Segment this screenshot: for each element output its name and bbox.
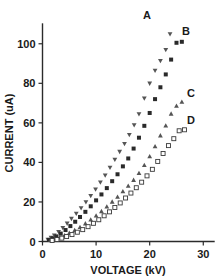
data-point	[129, 191, 133, 195]
data-point	[140, 180, 144, 184]
data-point	[104, 204, 109, 208]
data-point	[112, 158, 117, 162]
data-point	[69, 217, 74, 221]
series-markers-group	[45, 32, 186, 242]
x-axis-ticks: 0102030	[39, 242, 209, 260]
data-point	[60, 236, 64, 240]
x-axis-title: VOLTAGE (kV)	[90, 264, 166, 276]
data-point	[94, 213, 99, 217]
data-point	[68, 224, 72, 228]
data-point	[137, 112, 142, 116]
x-tick-label: 20	[144, 248, 156, 260]
data-point	[134, 186, 138, 190]
y-axis-title: CURRENT (uA)	[3, 93, 15, 172]
x-tick-label: 0	[39, 248, 45, 260]
data-point	[158, 59, 163, 63]
data-point	[103, 174, 108, 178]
data-point	[50, 239, 54, 243]
data-point	[73, 220, 77, 224]
data-point	[147, 154, 152, 158]
data-point	[78, 215, 82, 219]
series-labels-group: ABCD	[143, 9, 195, 126]
data-point	[126, 184, 131, 188]
data-point	[88, 217, 93, 221]
data-point	[74, 212, 79, 216]
data-point	[174, 41, 178, 45]
data-point	[75, 230, 79, 234]
data-point	[177, 129, 181, 133]
data-point	[116, 172, 120, 176]
data-point	[145, 174, 149, 178]
series-label-c: C	[187, 87, 195, 99]
data-point	[89, 204, 93, 208]
data-point	[142, 96, 147, 100]
data-point	[105, 186, 109, 190]
data-point	[110, 179, 114, 183]
series-label-d: D	[187, 114, 195, 126]
data-point	[132, 123, 137, 127]
data-point	[117, 150, 122, 154]
data-point	[126, 156, 130, 160]
data-point	[169, 58, 173, 62]
data-point	[115, 194, 120, 198]
data-point	[158, 85, 162, 89]
series-label-a: A	[143, 9, 151, 21]
y-tick-label: 20	[23, 196, 35, 208]
data-point	[127, 133, 132, 137]
plot-axes	[43, 24, 215, 242]
data-point	[142, 163, 147, 167]
data-point	[59, 232, 63, 236]
data-point	[137, 136, 141, 140]
data-point	[102, 214, 106, 218]
data-point	[161, 152, 165, 156]
data-point	[79, 206, 84, 210]
data-point	[172, 137, 176, 141]
data-point	[131, 178, 136, 182]
data-point	[147, 82, 152, 86]
y-tick-label: 100	[17, 38, 35, 50]
y-tick-label: 80	[23, 77, 35, 89]
data-point	[110, 199, 115, 203]
data-point	[65, 235, 69, 239]
data-point	[113, 205, 117, 209]
data-point	[120, 189, 125, 193]
data-point	[86, 225, 90, 229]
x-tick-label: 30	[197, 248, 209, 260]
data-point	[124, 196, 128, 200]
data-point	[179, 100, 184, 104]
data-point	[107, 210, 111, 214]
data-point	[166, 144, 170, 148]
data-point	[97, 218, 101, 222]
data-point	[64, 228, 68, 232]
data-point	[183, 128, 187, 132]
series-c	[48, 100, 184, 243]
data-point	[83, 210, 87, 214]
iv-curve-scatter-plot: 020406080100 0102030 VOLTAGE (kV) CURREN…	[0, 0, 224, 279]
data-point	[118, 201, 122, 205]
data-point	[164, 72, 168, 76]
data-point	[91, 221, 95, 225]
y-tick-label: 40	[23, 156, 35, 168]
data-point	[142, 124, 146, 128]
data-point	[163, 48, 168, 52]
data-point	[121, 164, 125, 168]
y-tick-label: 0	[29, 236, 35, 248]
data-point	[174, 103, 179, 107]
data-point	[99, 209, 104, 213]
data-point	[99, 192, 103, 196]
data-point	[132, 147, 136, 151]
data-point	[84, 200, 89, 204]
data-point	[156, 159, 160, 163]
data-point	[158, 133, 163, 137]
series-label-b: B	[182, 25, 190, 37]
data-point	[70, 233, 74, 237]
data-point	[150, 167, 154, 171]
data-point	[98, 180, 103, 184]
data-point	[137, 171, 142, 175]
data-point	[122, 142, 127, 146]
data-point	[94, 198, 98, 202]
x-tick-label: 10	[90, 248, 102, 260]
data-point	[163, 123, 168, 127]
data-point	[88, 194, 93, 198]
data-point	[55, 238, 59, 242]
